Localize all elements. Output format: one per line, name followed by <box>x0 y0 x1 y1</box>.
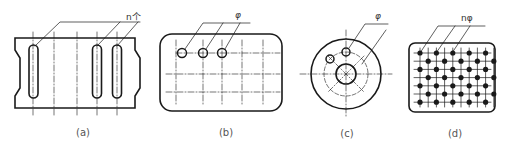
caption-b: (b) <box>219 127 233 138</box>
annotation-d: nφ <box>461 13 473 23</box>
annotation-a: n个 <box>126 10 141 23</box>
caption-c: (c) <box>340 128 353 139</box>
panel-c-drawing <box>300 24 392 118</box>
panel-a-drawing <box>15 22 140 116</box>
caption-a: (a) <box>76 127 90 138</box>
caption-d: (d) <box>448 128 462 139</box>
annotation-b: φ <box>235 10 241 20</box>
panel-b-drawing <box>160 23 282 111</box>
annotation-c: φ <box>375 11 381 21</box>
panel-d-drawing <box>409 26 496 112</box>
